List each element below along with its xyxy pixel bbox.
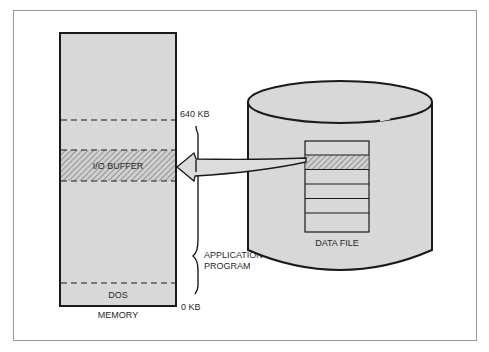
data-file: [305, 141, 369, 232]
memory-label: MEMORY: [98, 310, 138, 320]
data-file-label: DATA FILE: [315, 238, 359, 248]
data-file-record-highlighted: [306, 155, 369, 170]
io-buffer-label: I/O BUFFER: [93, 161, 144, 171]
marker-0kb: 0 KB: [181, 302, 201, 312]
diagram-canvas: I/O BUFFER DOS MEMORY 640 KB 0 KB APPLIC…: [0, 0, 489, 352]
application-label-line2: PROGRAM: [204, 261, 251, 271]
dos-label: DOS: [108, 290, 128, 300]
marker-640kb: 640 KB: [180, 109, 210, 119]
